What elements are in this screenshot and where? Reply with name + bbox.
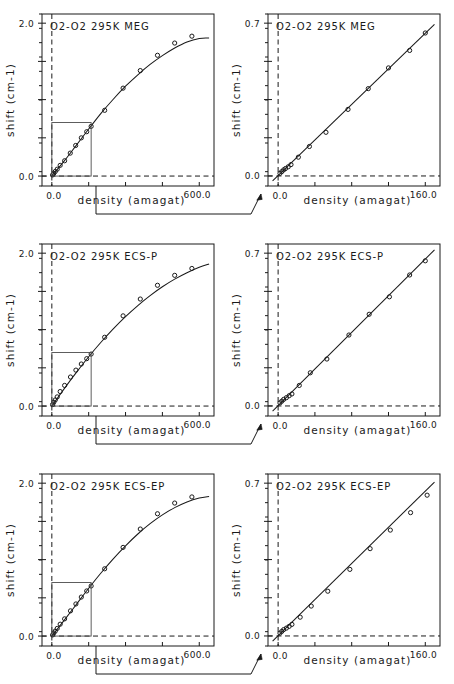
x-axis-title: density (amagat)	[77, 424, 185, 436]
reference-lines	[42, 14, 214, 186]
data-point-marker	[155, 512, 159, 516]
series-model-curve	[52, 264, 209, 406]
plot-frame	[42, 244, 214, 416]
svg-text:0.7: 0.7	[245, 479, 260, 489]
x-axis-title: density (amagat)	[303, 424, 411, 436]
svg-text:0.0: 0.0	[245, 171, 260, 181]
svg-text:2.0: 2.0	[19, 19, 34, 29]
panel-title: O2-O2 295K ECS-EP	[50, 481, 165, 492]
plot-panel-ecsp-full: 0.0600.00.02.0density (amagat)shift (cm-…	[0, 238, 228, 454]
series-model-curve	[52, 38, 209, 176]
tick-labels: 0.0160.00.00.7	[245, 19, 437, 201]
svg-text:0.0: 0.0	[273, 191, 288, 201]
y-axis-title: shift (cm-1)	[4, 293, 16, 367]
data-point-marker	[190, 34, 194, 38]
tick-labels: 0.0600.00.02.0	[19, 19, 211, 201]
svg-text:0.0: 0.0	[19, 632, 34, 642]
tick-labels: 0.0600.00.02.0	[19, 249, 211, 431]
data-point-marker	[173, 41, 177, 45]
data-point-marker	[326, 589, 330, 593]
svg-text:0.0: 0.0	[245, 631, 260, 641]
reference-lines	[42, 244, 214, 416]
svg-text:600.0: 600.0	[184, 190, 211, 200]
panel-title: O2-O2 295K ECS-P	[50, 251, 158, 262]
tick-labels: 0.0600.00.02.0	[19, 479, 211, 661]
y-axis-title: shift (cm-1)	[4, 63, 16, 137]
data-point-marker	[173, 273, 177, 277]
panel-title: O2-O2 295K ECS-P	[276, 251, 384, 262]
svg-text:160.0: 160.0	[410, 420, 437, 430]
svg-text:600.0: 600.0	[184, 420, 211, 430]
data-point-marker	[388, 528, 392, 532]
series-data-points	[50, 266, 194, 406]
data-point-marker	[173, 501, 177, 505]
x-axis-title: density (amagat)	[303, 654, 411, 666]
axis-ticks	[264, 14, 425, 186]
y-axis-title: shift (cm-1)	[4, 523, 16, 597]
plot-frame	[42, 14, 214, 186]
series-fit-line	[273, 24, 435, 181]
panel-title: O2-O2 295K MEG	[276, 21, 376, 32]
plot-panel-meg-zoom: 0.0160.00.00.7density (amagat)shift (cm-…	[226, 8, 454, 224]
svg-text:0.7: 0.7	[245, 249, 260, 259]
data-point-marker	[348, 567, 352, 571]
y-axis-title: shift (cm-1)	[230, 523, 242, 597]
plot-panel-ecsep-zoom: 0.0160.00.00.7density (amagat)shift (cm-…	[226, 468, 454, 684]
svg-text:0.0: 0.0	[273, 651, 288, 661]
plot-panel-meg-full: 0.0600.00.02.0density (amagat)shift (cm-…	[0, 8, 228, 224]
svg-text:0.0: 0.0	[245, 401, 260, 411]
data-point-marker	[190, 495, 194, 499]
y-axis-title: shift (cm-1)	[230, 63, 242, 137]
series-data-points	[50, 34, 194, 177]
panel-title: O2-O2 295K ECS-EP	[276, 481, 391, 492]
svg-text:2.0: 2.0	[19, 249, 34, 259]
tick-labels: 0.0160.00.00.7	[245, 479, 437, 661]
data-point-marker	[138, 297, 142, 301]
svg-text:0.0: 0.0	[273, 421, 288, 431]
reference-lines	[42, 474, 214, 646]
axis-ticks	[38, 474, 199, 646]
plot-panel-ecsp-zoom: 0.0160.00.00.7density (amagat)shift (cm-…	[226, 238, 454, 454]
series-fit-line	[273, 482, 435, 641]
data-point-marker	[408, 511, 412, 515]
svg-text:160.0: 160.0	[410, 650, 437, 660]
svg-text:0.0: 0.0	[19, 402, 34, 412]
x-axis-title: density (amagat)	[77, 194, 185, 206]
panel-title: O2-O2 295K MEG	[50, 21, 150, 32]
svg-text:2.0: 2.0	[19, 479, 34, 489]
series-model-curve	[52, 497, 209, 637]
figure-canvas: 0.0600.00.02.0density (amagat)shift (cm-…	[0, 0, 454, 684]
y-axis-title: shift (cm-1)	[230, 293, 242, 367]
x-axis-title: density (amagat)	[303, 194, 411, 206]
x-axis-title: density (amagat)	[77, 654, 185, 666]
series-fit-line	[273, 250, 435, 411]
svg-text:0.0: 0.0	[19, 172, 34, 182]
data-point-marker	[155, 53, 159, 57]
svg-text:160.0: 160.0	[410, 190, 437, 200]
axis-ticks	[264, 474, 425, 646]
svg-text:0.0: 0.0	[46, 421, 61, 431]
svg-text:0.7: 0.7	[245, 19, 260, 29]
svg-text:0.0: 0.0	[46, 191, 61, 201]
data-point-marker	[425, 493, 429, 497]
svg-text:600.0: 600.0	[184, 650, 211, 660]
plot-frame	[42, 474, 214, 646]
plot-panel-ecsep-full: 0.0600.00.02.0density (amagat)shift (cm-…	[0, 468, 228, 684]
axis-ticks	[264, 244, 425, 416]
svg-text:0.0: 0.0	[46, 651, 61, 661]
data-point-marker	[155, 283, 159, 287]
series-data-points	[50, 495, 194, 637]
